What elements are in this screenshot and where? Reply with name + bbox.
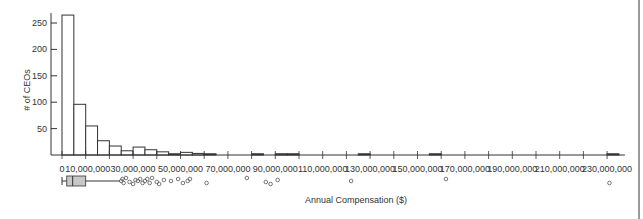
outlier-point	[146, 177, 150, 181]
outlier-point	[444, 177, 448, 181]
outlier-point	[269, 182, 273, 186]
x-tick-label: 230,000,000	[582, 164, 632, 174]
y-tick-label: 50	[37, 124, 47, 134]
outlier-point	[148, 181, 152, 185]
x-tick-label: 170,000,000	[440, 164, 490, 174]
outlier-point	[349, 179, 353, 183]
outlier-point	[264, 180, 268, 184]
x-tick-label: 190,000,000	[487, 164, 537, 174]
histogram-bar	[74, 104, 86, 155]
outlier-point	[245, 176, 249, 180]
x-tick-label: 90,000,000	[253, 164, 298, 174]
histogram-bar	[98, 141, 110, 155]
x-tick-label: 70,000,000	[205, 164, 250, 174]
outlier-point	[169, 179, 173, 183]
x-tick-label: 150,000,000	[392, 164, 442, 174]
x-tick-label: 50,000,000	[158, 164, 203, 174]
outlier-point	[157, 182, 161, 186]
boxplot	[62, 176, 611, 186]
outlier-point	[176, 177, 180, 181]
y-tick-label: 250	[32, 18, 47, 28]
x-axis-title: Annual Compensation ($)	[305, 195, 407, 205]
outlier-point	[128, 180, 132, 184]
histogram-bar	[145, 150, 157, 155]
x-tick-label: 210,000,000	[535, 164, 585, 174]
outlier-point	[143, 179, 147, 183]
outlier-point	[131, 182, 135, 186]
outlier-point	[150, 176, 154, 180]
outlier-point	[276, 178, 280, 182]
x-tick-label: 110,000,000	[298, 164, 347, 174]
iqr-box	[67, 176, 86, 186]
histogram-chart: 50100150200250 010,000,00030,000,00050,0…	[0, 0, 643, 219]
y-axis: 50100150200250	[32, 13, 57, 155]
histogram-bar	[109, 146, 121, 155]
outlier-point	[138, 177, 142, 181]
histogram-bar	[86, 126, 98, 155]
y-tick-label: 150	[32, 71, 47, 81]
outlier-point	[124, 176, 128, 180]
x-tick-label: 30,000,000	[111, 164, 156, 174]
outlier-point	[608, 181, 612, 185]
outlier-point	[162, 178, 166, 182]
histogram-bar	[62, 15, 74, 155]
page-edge-divider	[638, 0, 640, 219]
x-tick-label: 130,000,000	[345, 164, 395, 174]
x-tick-label: 0	[59, 164, 64, 174]
y-tick-label: 200	[32, 44, 47, 54]
outlier-point	[141, 181, 145, 185]
outlier-point	[122, 181, 126, 185]
y-axis-title: # of CEOs	[22, 69, 32, 111]
outlier-point	[186, 179, 190, 183]
y-tick-label: 100	[32, 97, 47, 107]
outlier-point	[188, 177, 192, 181]
outlier-point	[205, 181, 209, 185]
histogram-bar	[133, 147, 145, 155]
outlier-point	[155, 180, 159, 184]
histogram-bars	[62, 15, 619, 155]
histogram-bar	[121, 151, 133, 155]
outlier-point	[181, 181, 185, 185]
x-tick-label: 10,000,000	[65, 164, 110, 174]
